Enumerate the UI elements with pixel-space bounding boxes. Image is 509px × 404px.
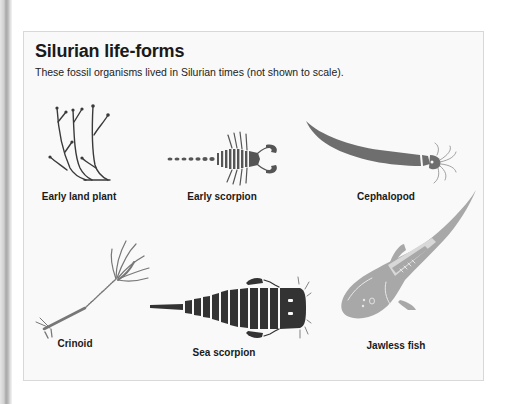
label-crinoid: Crinoid xyxy=(58,338,93,349)
label-early-land-plant: Early land plant xyxy=(42,191,116,202)
crinoid-icon xyxy=(36,241,149,338)
early-land-plant-icon xyxy=(50,106,110,180)
label-sea-scorpion: Sea scorpion xyxy=(193,347,256,358)
cephalopod-icon xyxy=(306,121,456,183)
jawless-fish-icon xyxy=(341,190,476,318)
label-early-scorpion: Early scorpion xyxy=(187,191,256,202)
label-jawless-fish: Jawless fish xyxy=(367,340,426,351)
early-scorpion-icon xyxy=(168,132,277,185)
sea-scorpion-icon xyxy=(150,277,311,338)
label-cephalopod: Cephalopod xyxy=(357,191,415,202)
